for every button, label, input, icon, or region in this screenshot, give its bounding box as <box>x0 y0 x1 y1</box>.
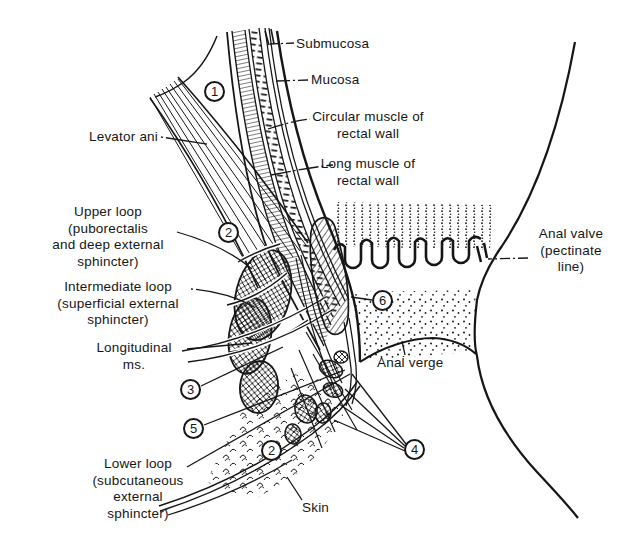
label-anal-valve-line3: line) <box>520 259 622 276</box>
label-long-muscle-line1: Long muscle of <box>303 156 433 173</box>
label-circular-muscle-line2: rectal wall <box>298 126 438 143</box>
label-anal-valve: Anal valve (pectinate line) <box>520 226 622 276</box>
label-lower-loop-line1: Lower loop <box>58 456 218 473</box>
buttock-contour <box>475 42 578 518</box>
marker-6: 6 <box>372 290 393 311</box>
label-upper-loop-line3: and deep external <box>28 237 188 254</box>
marker-2-upper: 2 <box>218 222 239 243</box>
label-lower-loop-line4: sphincter) <box>58 506 218 523</box>
leader-mucosa <box>276 80 308 81</box>
label-upper-loop: Upper loop (puborectalis and deep extern… <box>28 204 188 270</box>
label-circular-muscle-line1: Circular muscle of <box>298 109 438 126</box>
label-upper-loop-line2: (puborectalis <box>28 221 188 238</box>
label-long-muscle: Long muscle of rectal wall <box>303 156 433 189</box>
marker-2-lower: 2 <box>261 440 282 461</box>
label-longitudinal-ms: Longitudinal ms. <box>70 340 198 373</box>
label-longitudinal-ms-line1: Longitudinal <box>70 340 198 357</box>
verge-stipple <box>352 290 476 360</box>
label-anal-verge: Anal verge <box>377 355 444 372</box>
marker-1: 1 <box>204 81 225 102</box>
marker-4: 4 <box>404 439 425 460</box>
leader-skin <box>287 477 302 500</box>
label-anal-valve-line1: Anal valve <box>520 226 622 243</box>
anal-valves <box>334 202 492 268</box>
figure-anal-canal-diagram: Submucosa Mucosa Circular muscle of rect… <box>0 0 642 544</box>
leader-marker-4a <box>352 374 406 444</box>
subcutaneous-texture <box>206 374 344 500</box>
label-submucosa: Submucosa <box>296 36 369 53</box>
label-upper-loop-line1: Upper loop <box>28 204 188 221</box>
label-lower-loop: Lower loop (subcutaneous external sphinc… <box>58 456 218 522</box>
label-long-muscle-line2: rectal wall <box>303 173 433 190</box>
label-skin: Skin <box>302 500 329 517</box>
label-intermediate-loop-line2: (superficial external <box>36 296 200 313</box>
marker-5: 5 <box>183 418 204 439</box>
label-mucosa: Mucosa <box>311 72 359 89</box>
label-upper-loop-line4: sphincter) <box>28 254 188 271</box>
label-levator-ani: Levator ani <box>58 129 158 146</box>
label-intermediate-loop-line3: sphincter) <box>36 312 200 329</box>
label-lower-loop-line3: external <box>58 489 218 506</box>
leader-levator-ani <box>161 137 207 144</box>
marker-3: 3 <box>180 379 201 400</box>
label-circular-muscle: Circular muscle of rectal wall <box>298 109 438 142</box>
label-anal-valve-line2: (pectinate <box>520 243 622 260</box>
label-intermediate-loop: Intermediate loop (superficial external … <box>36 279 200 329</box>
label-lower-loop-line2: (subcutaneous <box>58 473 218 490</box>
label-intermediate-loop-line1: Intermediate loop <box>36 279 200 296</box>
label-longitudinal-ms-line2: ms. <box>70 357 198 374</box>
